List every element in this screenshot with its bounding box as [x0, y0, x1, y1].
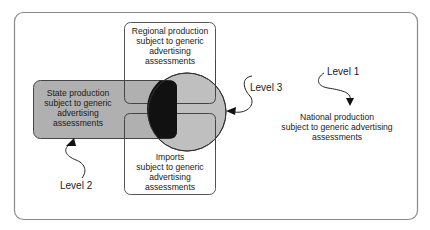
level1-label: Level 1 [327, 66, 359, 78]
level2-arrowhead [66, 138, 76, 146]
imports-label: Imports subject to generic advertising a… [124, 152, 216, 192]
regional-label: Regional production subject to generic a… [124, 26, 216, 66]
level1-arrowhead [346, 98, 354, 106]
national-label: National production subject to generic a… [272, 112, 402, 142]
level3-arrowhead [226, 107, 236, 115]
level2-label: Level 2 [60, 180, 92, 192]
level2-pointer [66, 144, 85, 178]
state-label: State production subject to generic adve… [36, 88, 120, 128]
level3-label: Level 3 [250, 82, 282, 94]
